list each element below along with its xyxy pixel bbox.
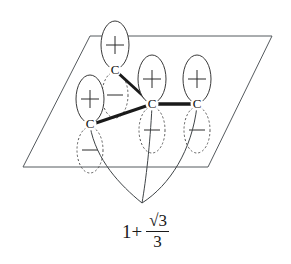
caption-numerator-text: √3 bbox=[149, 211, 167, 230]
atom-label: C bbox=[111, 62, 120, 77]
atom-label: C bbox=[193, 96, 202, 111]
nodal-arc-from-left-carbon bbox=[90, 126, 142, 203]
caption-fraction: √3 3 bbox=[146, 212, 169, 251]
caption-lead-term: 1+ bbox=[122, 222, 142, 241]
caption-numerator: √3 bbox=[146, 212, 169, 231]
figure-caption: 1+ √3 3 bbox=[0, 212, 291, 251]
nodal-arc-from-center-carbon bbox=[142, 106, 152, 203]
radical-icon: √3 bbox=[148, 212, 167, 230]
lobe-negative-c-right bbox=[184, 107, 210, 153]
nodal-arc-from-right-carbon bbox=[142, 106, 197, 203]
caption-denominator: 3 bbox=[151, 232, 164, 251]
lobe-negative-c-left bbox=[77, 127, 103, 173]
caption-math-expression: 1+ √3 3 bbox=[122, 212, 169, 251]
molecular-orbital-figure: C C C C 1+ √3 bbox=[0, 0, 291, 264]
atom-label: C bbox=[148, 96, 157, 111]
atom-label: C bbox=[86, 116, 95, 131]
